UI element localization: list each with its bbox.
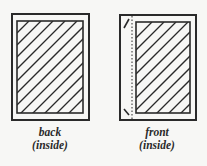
front-label-subtitle: (inside) (117, 139, 197, 152)
front-label-title: front (117, 126, 197, 139)
fold-mark-top (124, 19, 129, 28)
back-label: back (inside) (10, 126, 90, 152)
fold-mark-bottom (124, 109, 129, 115)
front-outer-frame (120, 15, 196, 120)
front-label: front (inside) (117, 126, 197, 152)
back-label-title: back (10, 126, 90, 139)
back-label-subtitle: (inside) (10, 139, 90, 152)
